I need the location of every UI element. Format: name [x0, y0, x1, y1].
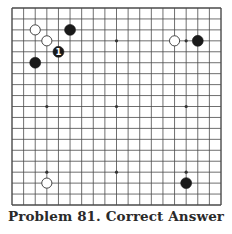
black-stone-icon [65, 24, 76, 35]
white-stone-icon [42, 178, 52, 188]
white-stone-icon [42, 36, 52, 46]
white-stone-icon [169, 36, 179, 46]
black-stone-icon [192, 35, 203, 46]
black-stone-icon [181, 178, 192, 189]
move-number-label: 1 [55, 47, 61, 57]
star-point-icon [185, 171, 188, 174]
star-point-icon [45, 171, 48, 174]
go-board: 1 [0, 0, 232, 212]
white-stone-icon [30, 25, 40, 35]
diagram-caption: Problem 81. Correct Answer [0, 208, 232, 224]
star-point-icon [115, 39, 118, 42]
star-point-icon [185, 39, 188, 42]
go-board-grid: 1 [0, 0, 232, 212]
star-point-icon [185, 105, 188, 108]
star-point-icon [45, 105, 48, 108]
star-point-icon [115, 171, 118, 174]
black-stone-icon [30, 57, 41, 68]
star-point-icon [115, 105, 118, 108]
